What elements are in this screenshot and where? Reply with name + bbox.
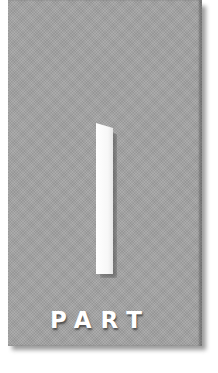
- part-label: PART: [46, 306, 172, 334]
- roman-numeral-one: [96, 123, 113, 274]
